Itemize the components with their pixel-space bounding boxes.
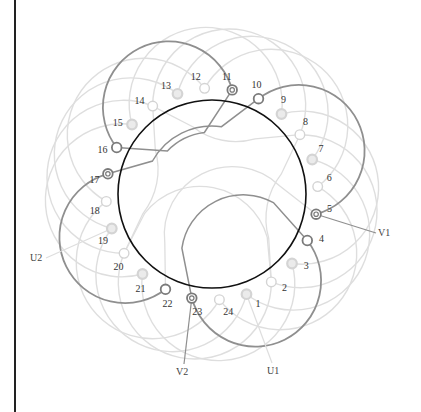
inner-connections [108,90,316,298]
slot-label-11: 11 [222,71,232,82]
slot-labels: 123456789101112131415161718192021222324 [90,71,332,317]
slot-node-18 [102,197,112,207]
inactive-coil-arc [76,201,219,338]
slot-node-13 [173,89,183,99]
terminal-labels: V1 U2 V2 U1 [30,227,390,377]
slot-node-17 [103,169,113,179]
slot-label-1: 1 [256,298,261,309]
slot-label-21: 21 [136,283,146,294]
slot-label-16: 16 [97,144,107,155]
slot-node-1 [242,289,252,299]
slot-node-2 [267,277,277,287]
slot-node-11 [227,85,237,95]
coil-arc-22-17 [59,174,165,303]
inactive-coil-arc [205,49,348,186]
slot-label-5: 5 [327,203,332,214]
terminal-u1-label: U1 [267,365,279,376]
winding-diagram: 123456789101112131415161718192021222324 … [0,0,421,412]
slot-node-4 [303,236,313,246]
slot-label-4: 4 [319,233,324,244]
inactive-coil-arc [219,187,356,330]
terminal-v1-label: V1 [378,227,390,238]
slot-node-7 [307,155,317,165]
inner-connection-10-17 [108,99,259,174]
slot-label-12: 12 [191,71,201,82]
stator-circle [118,100,306,288]
slot-node-9 [277,109,287,119]
inactive-coil-arc [67,58,204,201]
slot-label-19: 19 [98,235,108,246]
slot-label-13: 13 [161,80,171,91]
slot-node-15 [127,120,137,130]
slot-node-19 [107,224,117,234]
coil-arc-10-5 [259,85,365,214]
slot-node-24 [215,295,225,305]
slot-label-8: 8 [303,116,308,127]
slot-node-12 [200,84,210,94]
slot-label-14: 14 [134,95,144,106]
slot-label-9: 9 [281,94,286,105]
slot-label-3: 3 [304,260,309,271]
active-winding-arcs [59,41,364,346]
slot-label-20: 20 [114,261,124,272]
slot-node-5 [311,209,321,219]
lead-v1 [316,214,376,233]
slot-node-3 [287,259,297,269]
coil-arc-16-11 [103,41,232,147]
slot-label-24: 24 [223,306,233,317]
slot-node-20 [119,249,129,259]
slot-node-6 [313,182,323,192]
slot-label-15: 15 [113,117,123,128]
slot-node-22 [161,285,171,295]
slot-label-10: 10 [252,79,262,90]
slot-label-18: 18 [90,205,100,216]
terminal-u2-label: U2 [30,252,42,263]
slot-node-23 [187,293,197,303]
slot-label-17: 17 [90,174,100,185]
slot-node-21 [138,269,148,279]
inactive-inner-connection [124,186,271,282]
slot-label-2: 2 [282,282,287,293]
slot-node-8 [295,130,305,140]
slot-node-14 [148,101,158,111]
slot-node-16 [112,143,122,153]
coil-arc-4-23 [192,241,321,347]
slot-label-6: 6 [327,172,332,183]
inactive-winding-arcs [45,27,378,360]
terminal-v2-label: V2 [176,366,188,377]
slot-label-22: 22 [163,298,173,309]
slot-node-10 [254,94,264,104]
slot-label-23: 23 [192,306,202,317]
slot-label-7: 7 [319,143,324,154]
